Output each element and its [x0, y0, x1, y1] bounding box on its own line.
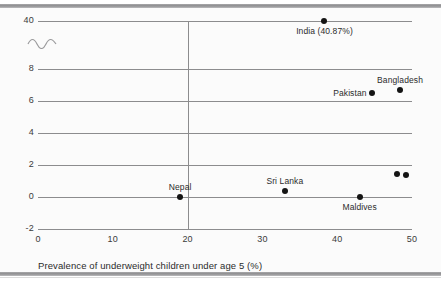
x-tick-label-20: 20	[173, 234, 203, 244]
data-point-bangladesh[interactable]	[397, 87, 403, 93]
y-tick-label-40: 40	[8, 15, 34, 25]
data-point-label-nepal: Nepal	[169, 182, 192, 192]
gridline-y-2	[38, 165, 412, 166]
data-point-unlabeled-7[interactable]	[403, 172, 409, 178]
gridline-y-8	[38, 69, 412, 70]
x-tick-label-30: 30	[247, 234, 277, 244]
y-tick-label--2: -2	[8, 223, 34, 233]
data-point-india[interactable]	[321, 18, 327, 24]
reference-line-x20	[188, 21, 189, 229]
x-tick-label-50: 50	[397, 234, 427, 244]
x-tick-label-0: 0	[23, 234, 53, 244]
gridline-y-40	[38, 21, 412, 22]
x-tick-label-10: 10	[98, 234, 128, 244]
y-tick-label-0: 0	[8, 191, 34, 201]
page-edge-bar-bottom	[0, 272, 441, 276]
y-axis-break-icon	[27, 35, 57, 47]
gridline-y-4	[38, 133, 412, 134]
data-point-label-pakistan: Pakistan	[333, 88, 366, 98]
x-axis-title: Prevalence of underweight children under…	[38, 260, 262, 271]
gridline-y-0	[38, 197, 412, 198]
chart-figure: -20246840 India (40.87%)BangladeshPakist…	[0, 0, 441, 290]
gridline-y--2	[38, 229, 412, 230]
data-point-pakistan[interactable]	[369, 90, 375, 96]
y-tick-label-6: 6	[8, 95, 34, 105]
data-point-label-sri: Sri Lanka	[266, 176, 303, 186]
data-point-label-bangladesh: Bangladesh	[377, 75, 423, 85]
data-point-nepal[interactable]	[177, 194, 183, 200]
data-point-unlabeled-6[interactable]	[394, 171, 400, 177]
gridline-y-6	[38, 101, 412, 102]
data-point-sri[interactable]	[282, 188, 288, 194]
x-tick-label-40: 40	[322, 234, 352, 244]
data-point-label-india: India (40.87%)	[296, 26, 353, 36]
y-tick-label-8: 8	[8, 63, 34, 73]
y-tick-label-2: 2	[8, 159, 34, 169]
data-point-label-maldives: Maldives	[342, 202, 376, 212]
data-point-maldives[interactable]	[357, 194, 363, 200]
y-tick-label-4: 4	[8, 127, 34, 137]
plot-canvas: -20246840 India (40.87%)BangladeshPakist…	[0, 8, 441, 272]
